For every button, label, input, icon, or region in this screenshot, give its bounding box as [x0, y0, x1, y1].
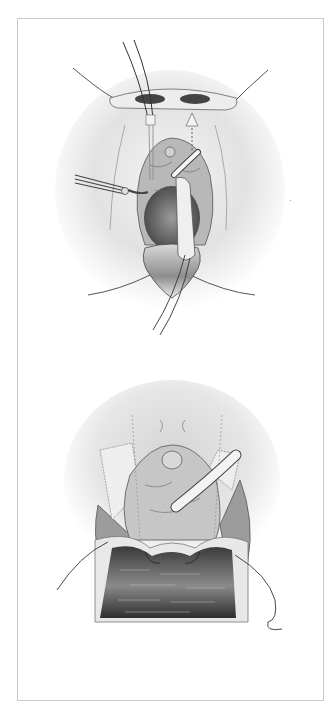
speck [290, 200, 291, 201]
canal-opening [95, 536, 248, 622]
surgical-illustration-top [0, 0, 332, 360]
illustration-panel-bottom [0, 360, 332, 714]
surgical-illustration-bottom [0, 360, 332, 714]
illustration-panel-top [0, 0, 332, 360]
